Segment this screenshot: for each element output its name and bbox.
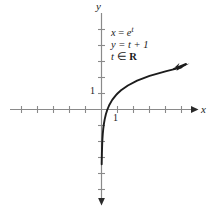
y-axis-tick-label-1: 1 [90, 86, 95, 96]
parametric-curve-figure: y x 1 1 x = et y = t + 1 t ∈ R [0, 0, 213, 211]
element-of-icon: ∈ [114, 51, 129, 62]
parametric-equations-annotation: x = et y = t + 1 t ∈ R [111, 27, 149, 63]
real-numbers-symbol: R [129, 51, 136, 62]
equation-line-domain: t ∈ R [111, 51, 149, 63]
x-axis-label: x [201, 104, 206, 115]
x-axis-arrowhead [191, 106, 199, 113]
x-axis-tick-label-1: 1 [113, 113, 118, 123]
equation-line-y: y = t + 1 [111, 39, 149, 51]
y-axis-arrowhead [98, 198, 105, 206]
equation-x-equals: = [116, 27, 127, 38]
graph-canvas [0, 0, 213, 211]
equation-line-x: x = et [111, 27, 149, 39]
y-axis-label: y [96, 1, 101, 12]
equation-x-exponent: t [132, 25, 134, 34]
